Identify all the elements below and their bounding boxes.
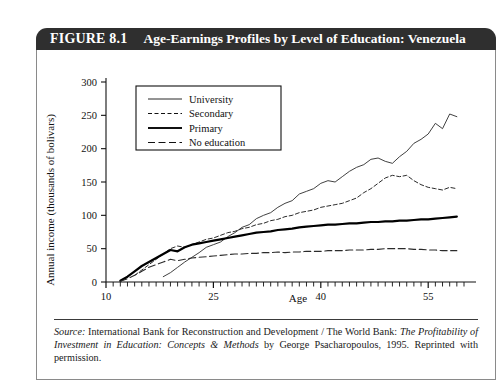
x-tick-label: 10 xyxy=(101,291,112,302)
x-axis-title: Age xyxy=(289,292,307,304)
legend-label: Primary xyxy=(189,123,224,134)
y-axis: 050100150200250300 xyxy=(81,77,106,288)
chart-plot-area: 050100150200250300 10254055 UniversitySe… xyxy=(36,50,496,308)
x-tick-label: 40 xyxy=(316,291,327,302)
y-tick-label: 0 xyxy=(92,277,97,288)
series-line-no-education xyxy=(120,249,457,282)
figure-title-text: Age-Earnings Profiles by Level of Educat… xyxy=(143,31,465,47)
x-tick-label: 25 xyxy=(208,291,219,302)
series-line-secondary xyxy=(135,175,457,275)
source-divider xyxy=(54,319,478,320)
legend-label: Secondary xyxy=(189,108,234,119)
figure-number-label: FIGURE 8.1 xyxy=(50,31,127,47)
source-prefix: Source: xyxy=(54,326,85,337)
y-tick-label: 50 xyxy=(87,243,98,254)
y-tick-label: 200 xyxy=(81,143,97,154)
source-line-1: International Bank for Reconstruction an… xyxy=(85,326,400,337)
figure-title-bar: FIGURE 8.1 Age-Earnings Profiles by Leve… xyxy=(36,28,496,50)
legend-label: No education xyxy=(189,137,246,148)
chart-legend: UniversitySecondaryPrimaryNo education xyxy=(136,86,281,150)
series-line-primary xyxy=(120,217,457,281)
source-note: Source: International Bank for Reconstru… xyxy=(54,325,478,365)
y-axis-title: Annual income (thousands of bolivars) xyxy=(44,114,57,286)
figure-card: FIGURE 8.1 Age-Earnings Profiles by Leve… xyxy=(18,14,478,366)
y-tick-label: 100 xyxy=(81,210,97,221)
y-tick-label: 150 xyxy=(81,177,97,188)
x-tick-label: 55 xyxy=(423,291,434,302)
y-tick-label: 250 xyxy=(81,110,97,121)
age-earnings-line-chart: 050100150200250300 10254055 UniversitySe… xyxy=(36,50,496,308)
y-tick-label: 300 xyxy=(81,77,97,88)
legend-label: University xyxy=(189,94,234,105)
